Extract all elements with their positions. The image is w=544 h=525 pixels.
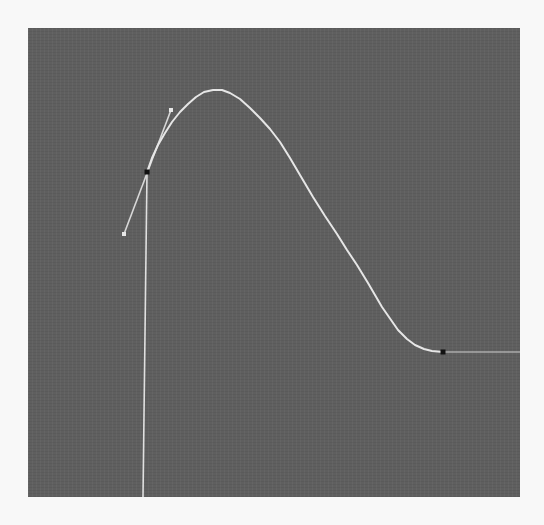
curve-graph[interactable] (0, 0, 544, 525)
pre-extrapolation-line (143, 172, 147, 497)
tangent-handle-out[interactable] (169, 108, 173, 112)
keyframe-2[interactable] (441, 350, 446, 355)
animation-curve[interactable] (147, 90, 443, 352)
keyframe-1[interactable] (145, 170, 150, 175)
tangent-handle-in[interactable] (122, 232, 126, 236)
curve-editor-window (0, 0, 544, 525)
